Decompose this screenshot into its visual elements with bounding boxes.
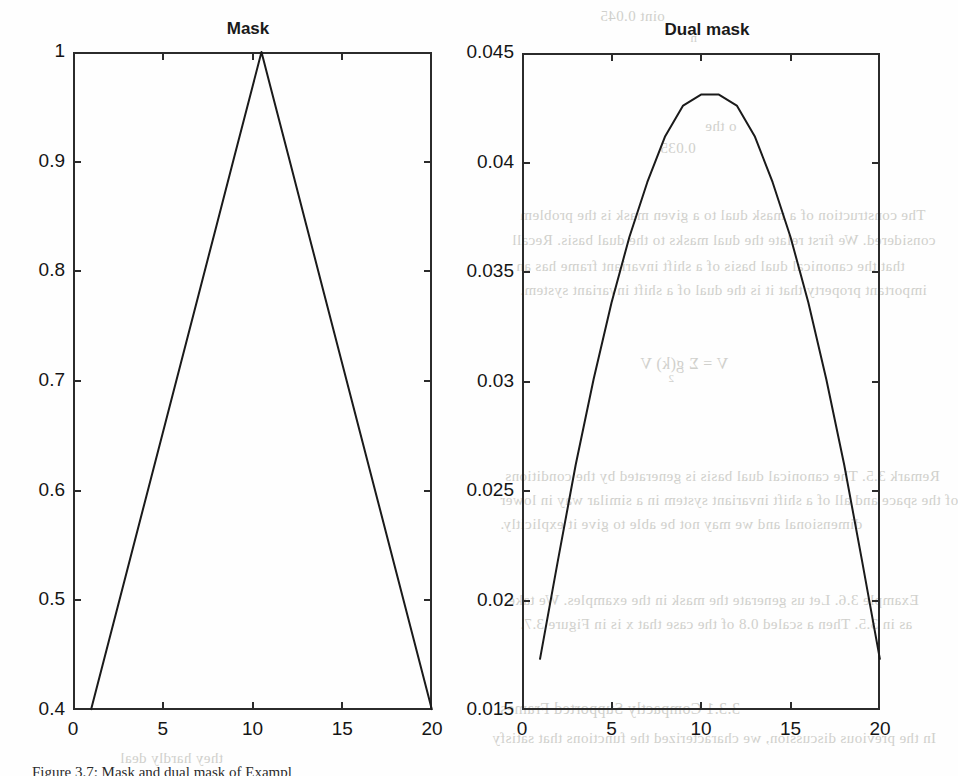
figure-caption: Figure 3.7: Mask and dual mask of Exampl — [32, 764, 292, 776]
y-tick-mark — [522, 490, 530, 492]
y-tick-mark — [872, 600, 880, 602]
y-tick-label: 0.04 — [434, 151, 514, 173]
x-tick-label: 5 — [582, 718, 642, 740]
x-tick-mark — [611, 53, 613, 61]
x-tick-label: 20 — [850, 718, 910, 740]
y-tick-mark — [522, 271, 530, 273]
y-tick-mark — [872, 162, 880, 164]
y-tick-label: 0.03 — [434, 370, 514, 392]
y-tick-label: 0.035 — [434, 260, 514, 282]
figure-caption-clip: Figure 3.7: Mask and dual mask of Exampl — [32, 764, 552, 776]
y-tick-mark — [522, 600, 530, 602]
x-tick-mark — [611, 702, 613, 710]
x-tick-mark — [700, 702, 702, 710]
data-series-line — [540, 95, 880, 660]
y-tick-mark — [522, 381, 530, 383]
y-tick-mark — [872, 271, 880, 273]
x-tick-label: 15 — [761, 718, 821, 740]
x-tick-label: 10 — [671, 718, 731, 740]
x-tick-mark — [700, 53, 702, 61]
x-tick-mark — [790, 702, 792, 710]
y-tick-label: 0.015 — [434, 698, 514, 720]
x-tick-label: 0 — [492, 718, 552, 740]
y-tick-mark — [522, 162, 530, 164]
y-tick-label: 0.02 — [434, 589, 514, 611]
y-tick-mark — [872, 381, 880, 383]
x-tick-mark — [790, 53, 792, 61]
y-tick-label: 0.025 — [434, 479, 514, 501]
y-tick-label: 0.045 — [434, 41, 514, 63]
y-tick-mark — [872, 490, 880, 492]
